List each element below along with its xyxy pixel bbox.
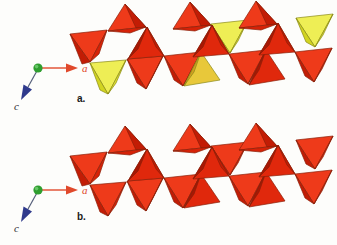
- axis-label-c-a: c: [14, 100, 19, 110]
- tetrahedron-a-11: [239, 1, 277, 30]
- tetrahedron-a-1: [70, 30, 107, 64]
- tetrahedron-a-16: [295, 48, 332, 82]
- tetrahedron-b-6: [173, 124, 211, 153]
- axis-label-c-b: c: [14, 222, 19, 232]
- tetrahedron-b-15: [296, 136, 333, 169]
- panel-b: a c b.: [0, 122, 337, 244]
- axis-c-arrow-a: [21, 69, 38, 100]
- tetrahedron-a-4: [127, 56, 163, 89]
- tetrahedron-a-15-yellow: [296, 14, 333, 47]
- figure-root: a c a.: [0, 0, 337, 245]
- panel-a: a c a.: [0, 0, 337, 122]
- origin-dot-a: [33, 63, 42, 72]
- origin-dot-b: [33, 185, 42, 194]
- tetrahedron-b-16: [295, 170, 332, 204]
- tetrahedra-chain-a: [68, 0, 337, 122]
- tetrahedron-b-4: [127, 178, 163, 211]
- tetrahedron-b-1: [70, 152, 107, 186]
- axis-c-arrow-b: [21, 191, 38, 222]
- tetrahedron-a-3-yellow: [90, 60, 126, 94]
- tetrahedron-a-6: [173, 2, 211, 31]
- tetrahedron-a-2: [108, 4, 146, 33]
- tetrahedron-b-11: [239, 123, 277, 152]
- tetrahedron-b-3: [90, 182, 126, 216]
- tetrahedra-chain-b: [68, 122, 337, 244]
- tetrahedron-b-2: [108, 126, 146, 155]
